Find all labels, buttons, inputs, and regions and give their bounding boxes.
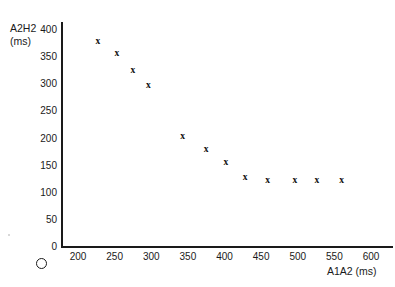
data-point-marker: x [128,65,137,75]
y-axis-line [61,22,63,248]
scatter-chart: A2H2 (ms) A1A2 (ms) 05010015020025030035… [0,0,395,287]
data-point-marker: x [202,144,211,154]
data-point-marker: x [178,131,187,141]
y-tick-label: 100 [31,188,57,198]
y-tick-label: 0 [31,242,57,252]
x-tick-label: 450 [246,252,276,262]
y-axis-title-line2: (ms) [10,35,36,48]
origin-circle-icon [36,258,47,269]
data-point-marker: x [241,172,250,182]
x-tick-label: 300 [136,252,166,262]
x-tick-label: 350 [173,252,203,262]
data-point-marker: x [144,80,153,90]
data-point-marker: x [112,48,121,58]
y-tick-label: 50 [31,215,57,225]
x-tick-label: 600 [356,252,386,262]
x-tick-label: 500 [283,252,313,262]
y-tick-label: 350 [31,52,57,62]
data-point-marker: x [93,36,102,46]
data-point-marker: x [290,175,299,185]
scan-artifact-speck [8,234,10,236]
data-point-marker: x [263,175,272,185]
data-point-marker: x [337,175,346,185]
x-tick-label: 400 [210,252,240,262]
y-tick-label: 150 [31,161,57,171]
x-tick-label: 550 [319,252,349,262]
y-tick-label: 250 [31,106,57,116]
x-tick-label: 250 [100,252,130,262]
x-axis-title: A1A2 (ms) [327,265,377,278]
x-axis-line [61,246,393,248]
y-tick-label: 300 [31,79,57,89]
y-tick-label: 200 [31,134,57,144]
y-tick-label: 400 [31,25,57,35]
data-point-marker: x [312,175,321,185]
data-point-marker: x [221,157,230,167]
x-tick-label: 200 [63,252,93,262]
